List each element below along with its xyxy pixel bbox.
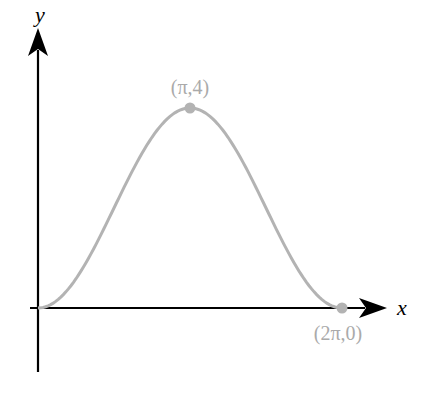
peak-point — [185, 103, 196, 114]
x-axis-label: x — [396, 295, 407, 320]
curve — [38, 108, 342, 308]
graph: y x (π,4) (2π,0) — [0, 0, 432, 401]
end-point — [337, 303, 348, 314]
y-axis-label: y — [33, 2, 45, 27]
peak-label: (π,4) — [171, 76, 209, 99]
end-label: (2π,0) — [314, 322, 362, 345]
